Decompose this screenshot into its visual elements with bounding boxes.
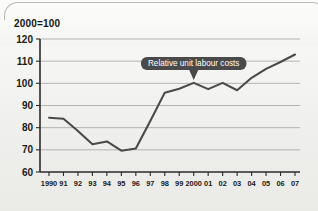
chart-svg: 60708090100110120 1990919293949596979899… bbox=[0, 0, 318, 211]
y-tick-label: 70 bbox=[22, 144, 34, 155]
chart-panel: 2000=100 60708090100110120 1990919293949… bbox=[0, 0, 318, 211]
callout-pointer-icon bbox=[189, 69, 199, 80]
x-tick-label: 04 bbox=[247, 179, 256, 188]
x-tick-label: 02 bbox=[219, 179, 227, 188]
x-tick-label: 99 bbox=[175, 179, 183, 188]
x-tick-label: 07 bbox=[291, 179, 299, 188]
x-tick-label: 97 bbox=[146, 179, 154, 188]
y-tick-label: 80 bbox=[22, 122, 34, 133]
callout-annotation: Relative unit labour costs bbox=[141, 57, 246, 80]
y-tick-label: 90 bbox=[22, 100, 34, 111]
line-chart: 60708090100110120 1990919293949596979899… bbox=[0, 0, 318, 211]
x-tick-label: 92 bbox=[74, 179, 82, 188]
x-tick-label: 05 bbox=[262, 179, 270, 188]
x-tick-label: 93 bbox=[88, 179, 96, 188]
callout-label: Relative unit labour costs bbox=[148, 59, 239, 68]
y-tick-label: 110 bbox=[17, 56, 34, 67]
x-tick-label: 91 bbox=[59, 179, 67, 188]
x-tick-label: 94 bbox=[103, 179, 112, 188]
x-tick-label: 03 bbox=[233, 179, 241, 188]
y-tick-label: 100 bbox=[16, 78, 33, 89]
y-axis-ticks-group: 60708090100110120 bbox=[16, 34, 40, 178]
x-tick-label: 2000 bbox=[185, 179, 201, 188]
x-tick-label: 96 bbox=[132, 179, 140, 188]
x-tick-label: 95 bbox=[117, 179, 125, 188]
y-tick-label: 120 bbox=[16, 34, 33, 45]
x-tick-label: 98 bbox=[161, 179, 169, 188]
y-tick-label: 60 bbox=[22, 167, 34, 178]
x-tick-label: 01 bbox=[204, 179, 212, 188]
x-axis-ticks-group: 1990919293949596979899200001020304050607 bbox=[41, 172, 299, 188]
x-tick-label: 06 bbox=[276, 179, 284, 188]
x-tick-label: 1990 bbox=[41, 179, 57, 188]
